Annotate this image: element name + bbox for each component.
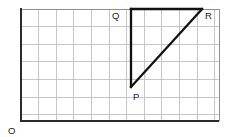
grid-figure-svg: Q R P O [0,0,231,137]
triangle-pqr [131,9,202,87]
grid-lines-horizontal [21,27,219,115]
vertex-label-p: P [133,91,139,102]
grid-frame [21,9,219,121]
vertex-label-r: R [205,10,212,21]
segment-pr [131,9,202,87]
origin-label: O [8,125,15,136]
vertex-label-q: Q [112,10,119,21]
figure-container: Q R P O [0,0,231,137]
axes [21,8,220,122]
